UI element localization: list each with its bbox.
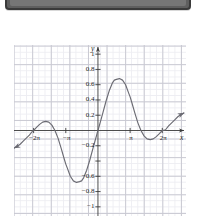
- y-tick-label-9: −1: [87, 203, 94, 210]
- x-tick-label-1: −π: [60, 135, 74, 142]
- function-graph: 10.80.60.40.2−0.2−0.6−0.8−1 −2π−ππ2π y x: [14, 45, 186, 216]
- y-tick-label-7: −0.6: [82, 173, 95, 180]
- x-axis-label: x: [180, 134, 183, 142]
- x-tick-label-0: −2π: [28, 135, 42, 142]
- y-tick-label-8: −0.8: [82, 188, 95, 195]
- y-tick-label-1: 0.8: [86, 66, 95, 73]
- screenshot-root: 10.80.60.40.2−0.2−0.6−0.8−1 −2π−ππ2π y x: [0, 0, 200, 216]
- curve-arrow-right: [181, 113, 184, 115]
- y-tick-label-5: −0.2: [82, 142, 95, 149]
- axes-group: [14, 47, 184, 216]
- plot-canvas: [14, 45, 186, 216]
- y-tick-label-2: 0.6: [86, 81, 95, 88]
- y-tick-label-4: 0.2: [86, 112, 95, 119]
- x-tick-label-2: π: [124, 135, 138, 142]
- y-axis-label: y: [91, 45, 94, 53]
- x-tick-label-3: 2π: [156, 135, 170, 142]
- y-tick-label-3: 0.4: [86, 96, 95, 103]
- curve-arrow-left: [14, 147, 17, 149]
- window-titlebar-inner: [10, 0, 186, 6]
- window-titlebar-strip[interactable]: [5, 0, 191, 10]
